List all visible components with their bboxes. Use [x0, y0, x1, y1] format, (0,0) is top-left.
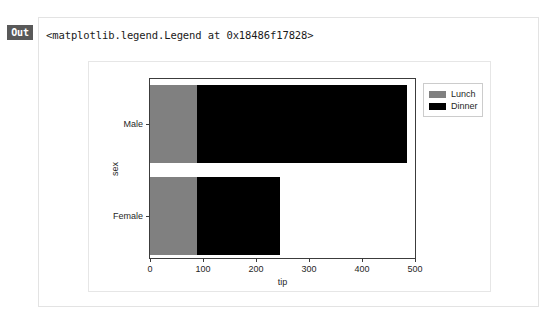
notebook-output-cell: <matplotlib.legend.Legend at 0x18486f178… [38, 17, 539, 307]
xtick-label-500: 500 [407, 264, 422, 274]
xtick-mark-500 [415, 258, 416, 262]
chart-axes: Male Female 0 100 200 300 400 500 tip se… [149, 78, 416, 259]
legend-entry-dinner: Dinner [429, 100, 477, 112]
xtick-mark-0 [150, 258, 151, 262]
xtick-mark-200 [256, 258, 257, 262]
xtick-label-0: 0 [147, 264, 152, 274]
legend-swatch-lunch [429, 91, 446, 98]
matplotlib-figure: Male Female 0 100 200 300 400 500 tip se… [88, 61, 491, 292]
plot-area [150, 79, 415, 258]
xtick-label-200: 200 [248, 264, 263, 274]
xtick-label-400: 400 [354, 264, 369, 274]
ytick-mark-female [146, 216, 150, 217]
bar-row-female [150, 177, 415, 255]
bar-segment-male-lunch [150, 85, 197, 163]
y-axis-label: sex [110, 161, 120, 175]
ytick-label-male: Male [123, 119, 143, 129]
ytick-label-female: Female [113, 211, 143, 221]
bar-row-male [150, 85, 415, 163]
legend-label-dinner: Dinner [451, 101, 478, 111]
legend-label-lunch: Lunch [451, 89, 476, 99]
bar-segment-female-lunch [150, 177, 197, 255]
xtick-label-300: 300 [301, 264, 316, 274]
output-prompt-badge: Out [7, 25, 33, 40]
bar-segment-female-dinner [197, 177, 280, 255]
xtick-mark-300 [309, 258, 310, 262]
legend-entry-lunch: Lunch [429, 88, 477, 100]
ytick-mark-male [146, 124, 150, 125]
x-axis-label: tip [278, 277, 288, 287]
chart-legend: Lunch Dinner [423, 83, 483, 117]
xtick-mark-100 [203, 258, 204, 262]
legend-swatch-dinner [429, 103, 446, 110]
bar-segment-male-dinner [197, 85, 407, 163]
xtick-mark-400 [362, 258, 363, 262]
xtick-label-100: 100 [195, 264, 210, 274]
legend-repr-text: <matplotlib.legend.Legend at 0x18486f178… [46, 29, 314, 41]
